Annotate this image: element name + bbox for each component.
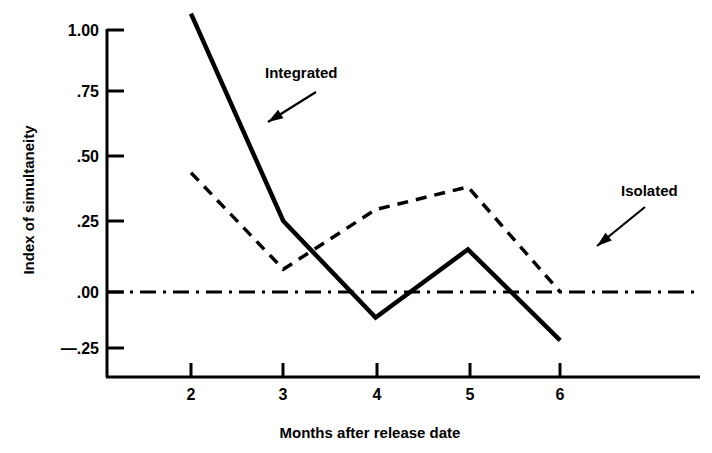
x-tick-label-6: 6	[556, 386, 565, 403]
y-axis-ticks	[107, 30, 124, 348]
y-tick-label-1.00: 1.00	[68, 22, 99, 39]
x-tick-label-2: 2	[187, 386, 196, 403]
x-tick-label-4: 4	[373, 386, 382, 403]
y-axis-tick-labels: 1.00 .75 .50 .25 .00 —.25	[61, 22, 99, 357]
annotation-isolated: Isolated	[597, 182, 678, 246]
x-axis-ticks	[191, 363, 560, 377]
x-axis-title: Months after release date	[280, 424, 461, 441]
chart-figure: 1.00 .75 .50 .25 .00 —.25 2 3 4 5 6 Mont…	[0, 0, 712, 453]
annotation-arrowhead-integrated	[268, 110, 283, 122]
x-axis-tick-labels: 2 3 4 5 6	[187, 386, 565, 403]
simultaneity-index-line-chart: 1.00 .75 .50 .25 .00 —.25 2 3 4 5 6 Mont…	[0, 0, 712, 453]
y-tick-label--0.25: —.25	[61, 340, 99, 357]
series-line-isolated	[191, 173, 560, 292]
y-tick-label-0.00: .00	[77, 284, 99, 301]
y-tick-label-0.75: .75	[77, 83, 99, 100]
y-tick-label-0.50: .50	[77, 148, 99, 165]
series-label-integrated: Integrated	[265, 64, 338, 81]
y-axis-title: Index of simultaneity	[20, 125, 37, 275]
y-tick-label-0.25: .25	[77, 213, 99, 230]
x-tick-label-3: 3	[279, 386, 288, 403]
series-label-isolated: Isolated	[621, 182, 678, 199]
annotation-integrated: Integrated	[265, 64, 338, 122]
x-tick-label-5: 5	[466, 386, 475, 403]
